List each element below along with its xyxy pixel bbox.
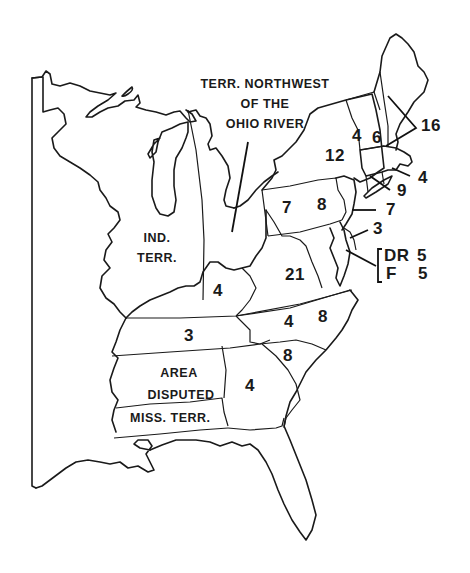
georgia-florida-border xyxy=(228,418,284,430)
lake-erie-shore xyxy=(234,172,278,208)
delaware-leader xyxy=(350,230,368,238)
tennessee-votes: 3 xyxy=(184,326,194,346)
chesapeake-bay xyxy=(330,222,350,286)
mississippi-lower xyxy=(110,318,126,432)
lake-michigan xyxy=(148,122,188,216)
nw-territory-line-1: TERR. NORTHWEST xyxy=(187,74,343,94)
disputed-line-2: DISPUTED xyxy=(136,384,226,406)
disputed-area-label: AREA DISPUTED xyxy=(146,362,226,406)
sc-georgia-border xyxy=(262,344,300,428)
indiana-nw-border xyxy=(188,110,204,300)
maryland-leader xyxy=(346,250,376,266)
rhode-island-leader xyxy=(392,168,410,176)
western-boundary xyxy=(32,77,42,488)
kentucky-virginia-border xyxy=(236,268,256,316)
maryland-dr-votes: 5 xyxy=(417,246,427,266)
maryland-dr-label: DR xyxy=(384,246,410,266)
rhode-island-votes: 4 xyxy=(418,168,428,188)
miss-terr-south-border xyxy=(114,428,228,438)
north-carolina-votes-right: 8 xyxy=(318,307,328,327)
ind-territory-label: IND. TERR. xyxy=(132,228,182,268)
nw-territory-label: TERR. NORTHWEST OF THE OHIO RIVER xyxy=(187,74,343,134)
massachusetts-votes: 16 xyxy=(421,116,441,136)
new-jersey-votes: 7 xyxy=(386,200,396,220)
nw-territory-line-2: OF THE xyxy=(187,94,343,114)
nw-territory-line-3: OHIO RIVER xyxy=(187,114,343,134)
pennsylvania-votes-right: 8 xyxy=(317,195,327,215)
south-carolina-votes: 8 xyxy=(283,346,293,366)
massachusetts-leader xyxy=(386,96,416,146)
miss-territory-label: MISS. TERR. xyxy=(130,411,211,425)
gulf-coast xyxy=(36,440,154,488)
isle-royale xyxy=(122,87,133,96)
vermont-votes: 4 xyxy=(352,126,362,146)
maine-coast xyxy=(374,34,428,150)
delaware-votes: 3 xyxy=(373,219,383,239)
maryland-bracket xyxy=(378,249,382,282)
new-jersey-coast xyxy=(336,176,356,230)
nw-territory-leader xyxy=(232,142,248,232)
mississippi-upper xyxy=(43,77,126,318)
pennsylvania-outline xyxy=(262,178,346,236)
pennsylvania-votes-left: 7 xyxy=(282,198,292,218)
massachusetts-outline xyxy=(360,146,412,176)
ind-territory-line-1: IND. xyxy=(132,228,182,248)
maryland-f-votes: 5 xyxy=(418,264,428,284)
ind-territory-line-2: TERR. xyxy=(132,248,182,268)
lake-superior-shore xyxy=(32,71,196,122)
north-carolina-votes-left: 4 xyxy=(284,312,294,332)
pennsylvania-south-border xyxy=(268,220,342,236)
disputed-line-1: AREA xyxy=(132,362,226,384)
new-hampshire-votes: 6 xyxy=(372,128,382,148)
electoral-map: TERR. NORTHWEST OF THE OHIO RIVER IND. T… xyxy=(0,0,470,573)
kentucky-votes: 4 xyxy=(213,281,223,301)
georgia-votes: 4 xyxy=(245,376,255,396)
virginia-votes: 21 xyxy=(285,265,305,285)
connecticut-votes: 9 xyxy=(397,181,407,201)
new-york-votes: 12 xyxy=(325,146,345,166)
maryland-f-label: F xyxy=(386,264,397,284)
